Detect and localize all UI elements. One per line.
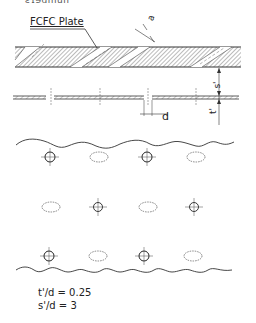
plate-label: FCFC Plate [30, 16, 84, 27]
ratio-t-d: t'/d = 0.25 [38, 287, 91, 298]
dimension-t-label: t' [208, 108, 218, 114]
dimension-s-label: s' [212, 81, 222, 88]
hole-row-2 [42, 198, 203, 216]
ellipse-icon [184, 251, 202, 261]
hole-icon [89, 198, 107, 216]
ellipse-icon [139, 202, 157, 212]
hole-icon [40, 247, 58, 265]
ratio-s-d: s'/d = 3 [38, 300, 77, 311]
fcfc-plate-diagram [0, 0, 256, 323]
perforated-plate [13, 88, 239, 106]
caption-fragment: ƨɿɘdmun [25, 0, 69, 5]
hole-icon [135, 247, 153, 265]
ellipse-icon [42, 202, 60, 212]
hole-icon [41, 148, 59, 166]
hole-icon [185, 198, 203, 216]
ellipse-icon [89, 251, 107, 261]
fcfc-plate [15, 44, 241, 67]
hole-icon [138, 148, 156, 166]
wavy-break-line-bottom [16, 267, 232, 272]
ellipse-icon [90, 152, 108, 162]
hole-row-3 [40, 247, 202, 265]
wavy-break-line-top [16, 139, 234, 148]
dimension-a [135, 24, 155, 42]
ellipse-icon [187, 152, 205, 162]
dimension-d-label: d [162, 110, 169, 123]
hole-row-1 [41, 148, 205, 166]
plate-label-leader [30, 29, 97, 48]
